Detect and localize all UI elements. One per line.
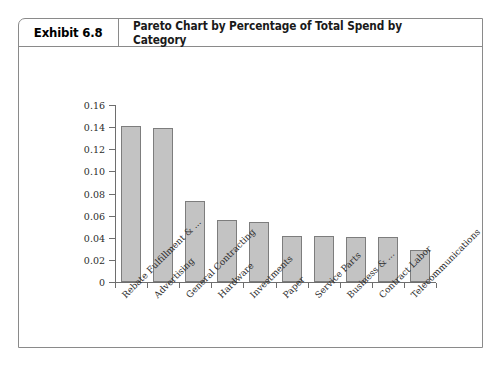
y-axis-tick-label: 0.10 [84,166,105,177]
y-axis-tick-label: 0 [99,277,105,288]
chart-area: 00.020.040.060.080.100.120.140.16 Rebate… [19,47,482,347]
y-axis-tick [109,260,116,261]
x-axis-tick [308,283,309,288]
x-axis-tick [115,283,116,288]
y-axis-tick-label: 0.16 [84,100,105,111]
exhibit-title-cell: Pareto Chart by Percentage of Total Spen… [119,19,482,46]
x-axis-tick [243,283,244,288]
y-axis-tick-label: 0.12 [84,144,105,155]
x-axis-tick [179,283,180,288]
y-axis-tick-label: 0.06 [84,210,105,221]
x-axis-tick [276,283,277,288]
x-axis-tick [436,283,437,288]
y-axis-tick [109,171,116,172]
y-axis-tick [109,149,116,150]
y-axis-tick-label: 0.02 [84,254,105,265]
x-axis-tick [211,283,212,288]
y-axis-tick [109,216,116,217]
x-axis-tick [372,283,373,288]
y-axis-tick [109,127,116,128]
y-axis-tick [109,194,116,195]
x-axis-tick [340,283,341,288]
y-axis-tick-label: 0.04 [84,232,105,243]
exhibit-number-label: Exhibit 6.8 [34,25,103,40]
exhibit-header: Exhibit 6.8 Pareto Chart by Percentage o… [19,19,482,47]
y-axis-tick [109,105,116,106]
exhibit-frame: Exhibit 6.8 Pareto Chart by Percentage o… [18,18,483,348]
y-axis-tick-label: 0.14 [84,122,105,133]
y-axis-tick [109,238,116,239]
x-axis-tick [404,283,405,288]
exhibit-number-cell: Exhibit 6.8 [19,19,119,46]
exhibit-title-label: Pareto Chart by Percentage of Total Spen… [133,19,454,47]
pareto-bar-chart: 00.020.040.060.080.100.120.140.16 Rebate… [19,47,482,347]
x-axis-tick [147,283,148,288]
y-axis-tick-label: 0.08 [84,188,105,199]
bar [121,126,141,282]
